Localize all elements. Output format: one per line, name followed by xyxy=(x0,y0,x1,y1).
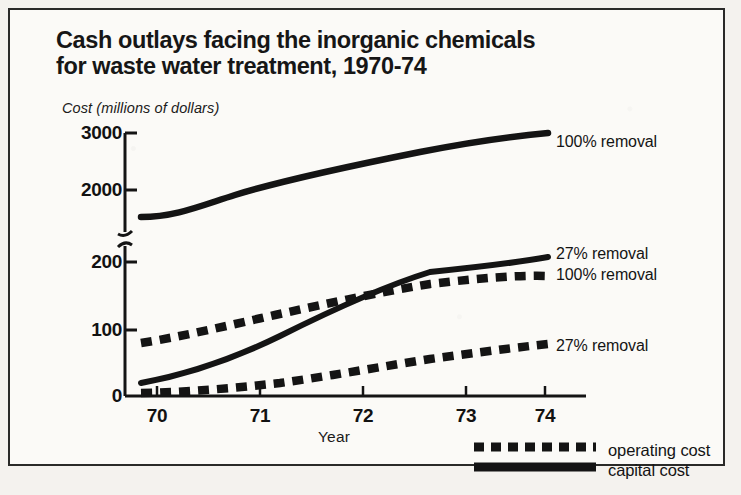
chart-figure: Cash outlays facing the inorganic chemic… xyxy=(0,0,741,495)
series-operating-cost-100-removal xyxy=(141,276,548,343)
series-capital-cost-100-removal xyxy=(141,133,548,217)
plot-area xyxy=(0,0,741,495)
